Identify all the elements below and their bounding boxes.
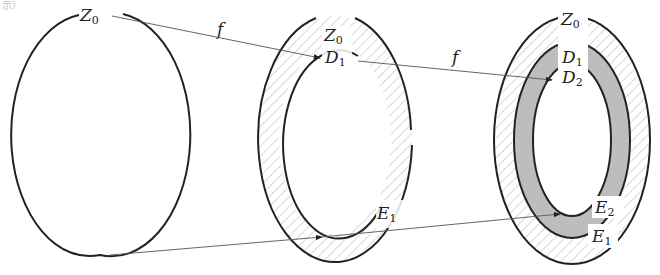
figure-second-image: Z0 D1 D2 E2 E1 (494, 9, 650, 264)
closed-curve (11, 14, 190, 256)
figure-first-image: Z0 D1 E1 (258, 16, 412, 264)
caption-fragment: 示） (2, 0, 22, 11)
arrow-z0-to-d1 (112, 16, 320, 58)
map-label-f-1: f (215, 19, 226, 39)
figure-original: Z0 (11, 5, 190, 256)
map-label-f-2: f (450, 47, 461, 67)
label-z0-fig1: Z0 (79, 5, 99, 27)
annulus-mapping-diagram: 示） Z0 Z0 D1 E1 Z0 D1 D2 E2 E1 (0, 0, 660, 275)
